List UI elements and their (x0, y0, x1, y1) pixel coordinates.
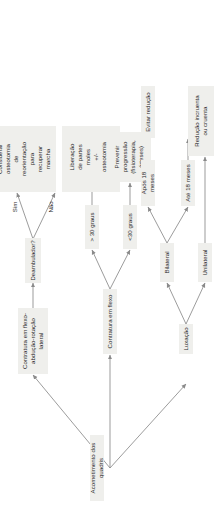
node-apos-18-meses[interactable]: Após 18 meses (141, 160, 155, 206)
node-menor-30-graus[interactable]: <30 graus (123, 205, 137, 249)
node-considerar-osteotomia-reorientacao[interactable]: Considerar osteotomia de reorientação pa… (0, 126, 56, 192)
node-root[interactable]: Acometimento dos quadris (90, 435, 104, 501)
node-unilateral[interactable]: Unilateral (198, 243, 212, 282)
node-ate-18-meses[interactable]: Até 18 meses (181, 160, 195, 206)
node-deambulador-question[interactable]: Deambulador? (25, 238, 41, 283)
edge-label-sim: Sim (11, 197, 18, 217)
node-evitar-reducao[interactable]: Evitar redução (141, 86, 155, 138)
flowchart-canvas: Acometimento dos quadris Contratura em f… (0, 0, 220, 505)
node-maior-30-graus[interactable]: > 30 graus (85, 205, 99, 249)
rotation-wrapper: Acometimento dos quadris Contratura em f… (0, 0, 220, 505)
node-reducao-incruenta-ou-cruenta[interactable]: Redução incruenta ou cruenta (188, 86, 214, 156)
node-bilateral[interactable]: Bilateral (160, 243, 174, 282)
node-luxacao[interactable]: Luxação (179, 324, 193, 354)
node-contratura-em-flexo[interactable]: Contratura em flexo (103, 289, 117, 354)
edge-label-nao: Não (47, 197, 54, 217)
node-contratura-flexo-abducao-rotacao-lateral[interactable]: Contratura em flexo- abdução-rotação lat… (18, 308, 48, 374)
